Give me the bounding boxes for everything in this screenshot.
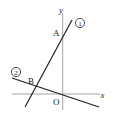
line-2-label-badge: 2	[11, 67, 20, 77]
diagram-canvas: x y A B O 1 2	[0, 0, 113, 116]
line-1-number: 1	[78, 20, 82, 28]
point-a-label: A	[53, 28, 60, 38]
y-axis-label: y	[58, 5, 63, 15]
line-1-label-badge: 1	[75, 18, 84, 28]
point-b-label: B	[28, 76, 34, 86]
coordinate-diagram: x y A B O 1 2	[0, 0, 113, 116]
origin-label: O	[53, 97, 60, 107]
line-2-number: 2	[14, 69, 18, 77]
x-axis-label: x	[100, 90, 105, 100]
